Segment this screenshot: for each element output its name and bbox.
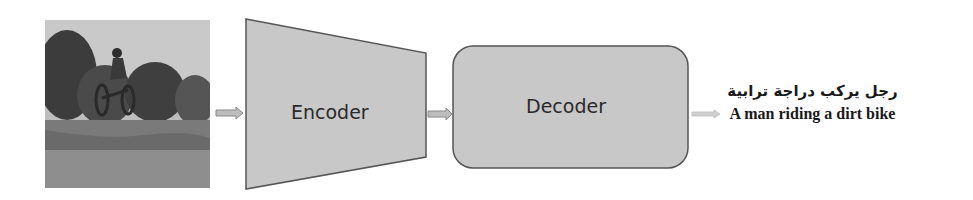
output-caption-english: A man riding a dirt bike (720, 105, 905, 123)
arrow-icon (216, 107, 243, 119)
arrow-icon (428, 108, 452, 120)
diagram-shapes (0, 0, 973, 200)
arrow-icon (692, 110, 720, 118)
encoder-label: Encoder (291, 101, 369, 123)
decoder-label: Decoder (526, 95, 606, 117)
output-caption-arabic: رجل يركب دراجة ترابية (720, 82, 905, 100)
